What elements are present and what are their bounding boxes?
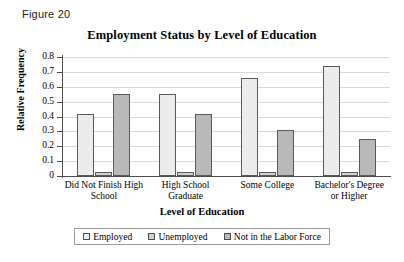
- gridline: [63, 72, 390, 73]
- bar: [195, 114, 212, 176]
- y-tick-label: 0.3: [14, 125, 54, 135]
- bar: [359, 139, 376, 176]
- gridline: [63, 117, 390, 118]
- legend-item[interactable]: Not in the Labor Force: [224, 232, 321, 242]
- legend-swatch-icon: [148, 233, 155, 240]
- x-axis-title: Level of Education: [0, 206, 404, 217]
- bar: [323, 66, 340, 176]
- gridline: [63, 161, 390, 162]
- legend-swatch-icon: [83, 233, 90, 240]
- bar: [241, 78, 258, 176]
- bar: [113, 94, 130, 176]
- x-axis-category-label-line: or Higher: [296, 191, 402, 202]
- legend-item[interactable]: Unemployed: [148, 232, 207, 242]
- x-axis-category-label-line: Bachelor's Degree: [296, 180, 402, 191]
- y-tick-label: 0.1: [14, 155, 54, 165]
- bar: [77, 114, 94, 176]
- y-tick-label: 0.6: [14, 81, 54, 91]
- x-axis-category-label-line: Graduate: [133, 191, 239, 202]
- legend-label: Unemployed: [158, 232, 207, 242]
- y-tick-label: 0.8: [14, 51, 54, 61]
- bar: [159, 94, 176, 176]
- y-tick-label: 0.7: [14, 66, 54, 76]
- x-axis-line: [62, 176, 391, 177]
- bar: [341, 172, 358, 176]
- legend-label: Employed: [93, 232, 132, 242]
- x-axis-category-label: Bachelor's Degreeor Higher: [296, 180, 402, 202]
- legend-swatch-icon: [224, 233, 231, 240]
- bar: [95, 172, 112, 176]
- gridline: [63, 87, 390, 88]
- legend-label: Not in the Labor Force: [234, 232, 321, 242]
- gridline: [63, 131, 390, 132]
- bar: [259, 172, 276, 176]
- gridline: [63, 146, 390, 147]
- y-tick-label: 0.5: [14, 96, 54, 106]
- bar-chart: Relative Frequency 0.80.70.60.50.40.30.2…: [0, 0, 404, 262]
- y-tick-label: 0.2: [14, 140, 54, 150]
- y-tick-label: 0: [14, 170, 54, 180]
- bar: [177, 172, 194, 176]
- y-tick-label: 0.4: [14, 111, 54, 121]
- gridline: [63, 57, 390, 58]
- bar: [277, 130, 294, 176]
- plot-area: [63, 57, 390, 176]
- legend: EmployedUnemployedNot in the Labor Force: [74, 228, 330, 245]
- gridline: [63, 102, 390, 103]
- legend-item[interactable]: Employed: [83, 232, 132, 242]
